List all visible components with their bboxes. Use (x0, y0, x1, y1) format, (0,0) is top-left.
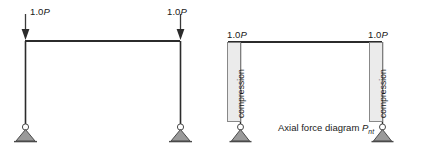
load-label-right: 1.0P (167, 6, 187, 17)
support-pin-right (169, 124, 192, 142)
portal-frame-graphics (0, 0, 210, 150)
axial-load-label-left: 1.0P (227, 29, 247, 40)
load-arrow-right (177, 14, 185, 40)
support-pin-left (14, 124, 37, 142)
compression-label-left: compression (236, 69, 246, 118)
axial-support-pin-left (230, 124, 252, 142)
portal-frame-loading-diagram: 1.0P 1.0P (0, 0, 210, 150)
axial-diagram-caption: Axial force diagram Pnt (278, 122, 374, 138)
load-label-left: 1.0P (30, 6, 50, 17)
load-arrow-left (22, 14, 30, 40)
axial-force-diagram: 1.0P 1.0P compression compression Axial … (210, 0, 421, 150)
axial-support-pin-right (372, 124, 394, 142)
diagram-canvas: 1.0P 1.0P (0, 0, 421, 150)
axial-load-label-right: 1.0P (368, 29, 388, 40)
compression-label-right: compression (378, 69, 388, 118)
